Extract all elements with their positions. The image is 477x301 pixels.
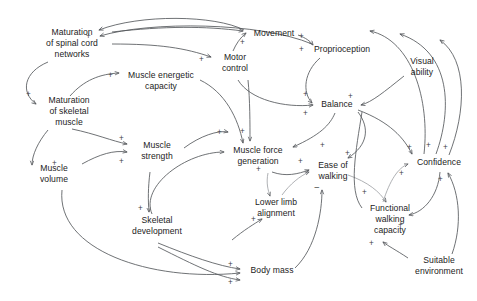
- polarity-sign-s28: +: [443, 144, 448, 152]
- node-motor_control[interactable]: Motor control: [211, 52, 259, 74]
- polarity-sign-s3: +: [108, 72, 113, 80]
- polarity-sign-s22: +: [138, 205, 143, 213]
- polarity-sign-s25: +: [369, 240, 374, 248]
- link-balance-to-ease-of-walking: [348, 112, 365, 158]
- link-confidence-to-upper-right: [400, 34, 445, 154]
- polarity-sign-s19: +: [345, 150, 350, 158]
- node-movement[interactable]: Movement: [248, 28, 300, 39]
- polarity-sign-s12: +: [119, 158, 124, 166]
- node-body_mass[interactable]: Body mass: [245, 265, 299, 276]
- polarity-sign-s20: +: [251, 216, 256, 224]
- polarity-sign-s6: +: [299, 33, 304, 41]
- link-suitable-environment-to-confidence: [448, 173, 458, 254]
- link-motor-control-vertical-to-muscle-force: [248, 80, 250, 141]
- node-muscle_energetic[interactable]: Muscle energetic capacity: [122, 70, 200, 92]
- polarity-sign-s1: +: [86, 33, 91, 41]
- polarity-sign-s18: +: [320, 142, 325, 150]
- polarity-sign-s13: +: [52, 160, 57, 168]
- node-visual_ability[interactable]: Visual ability: [400, 56, 444, 78]
- node-functional_walking[interactable]: Functional walking capacity: [357, 203, 423, 237]
- polarity-sign-s15: +: [240, 128, 245, 136]
- link-to-lower-limb-alignment: [232, 219, 262, 240]
- polarity-sign-s11: +: [119, 135, 124, 143]
- polarity-sign-s9: +: [303, 110, 308, 118]
- polarity-sign-s23: +: [362, 189, 367, 197]
- link-muscle-force-to-ease-of-walking: [272, 170, 309, 175]
- node-confidence[interactable]: Confidence: [410, 157, 468, 168]
- polarity-sign-s17: +: [298, 158, 303, 166]
- polarity-sign-s5: +: [240, 39, 245, 47]
- link-proprioception-to-balance: [306, 58, 320, 103]
- polarity-sign-s29: +: [399, 170, 404, 178]
- polarity-sign-s2: +: [26, 91, 31, 99]
- polarity-sign-s4: +: [199, 56, 204, 64]
- polarity-sign-s31: +: [228, 261, 233, 269]
- polarity-sign-s14: +: [217, 129, 222, 137]
- link-arc-functional-to-balance: [354, 112, 362, 208]
- link-movement-to-maturation-spinal: [99, 18, 244, 30]
- node-maturation_skeletal[interactable]: Maturation of skeletal muscle: [38, 95, 100, 129]
- node-ease_walking[interactable]: Ease of walking: [311, 160, 355, 182]
- link-balance-to-confidence: [358, 110, 412, 154]
- link-muscle-force-to-lower-limb: [267, 173, 270, 196]
- node-muscle_strength[interactable]: Muscle strength: [130, 140, 184, 162]
- polarity-sign-s7: +: [299, 46, 304, 54]
- link-lower-limb-to-ease-of-walking: [282, 172, 309, 195]
- causal-loop-diagram: Maturation of spinal cord networksMatura…: [0, 0, 477, 301]
- polarity-sign-s30: +: [438, 176, 443, 184]
- polarity-sign-s10: +: [348, 93, 353, 101]
- link-maturation-spinal-to-motor-control: [112, 44, 211, 57]
- link-balance-to-muscle-force: [293, 113, 335, 147]
- polarity-sign-s26: +: [407, 144, 412, 152]
- polarity-sign-s21: −: [314, 184, 320, 192]
- link-visual-ability-to-balance: [361, 76, 404, 105]
- link-maturation-skeletal-to-muscle-volume: [32, 130, 48, 165]
- polarity-sign-s32: +: [228, 279, 233, 287]
- node-skeletal_dev[interactable]: Skeletal development: [118, 215, 196, 237]
- node-maturation_spinal[interactable]: Maturation of spinal cord networks: [30, 27, 114, 61]
- polarity-sign-s27: +: [426, 142, 431, 150]
- node-suitable_env[interactable]: Suitable environment: [404, 255, 474, 277]
- polarity-sign-s24: +: [398, 222, 403, 230]
- link-confidence-to-movement: [370, 31, 425, 154]
- link-maturation-spinal-to-movement: [112, 27, 243, 32]
- node-proprioception[interactable]: Proprioception: [306, 44, 378, 55]
- link-functional-walking-to-confidence: [383, 164, 408, 202]
- polarity-sign-s8: +: [303, 91, 308, 99]
- polarity-sign-s16: +: [256, 166, 261, 174]
